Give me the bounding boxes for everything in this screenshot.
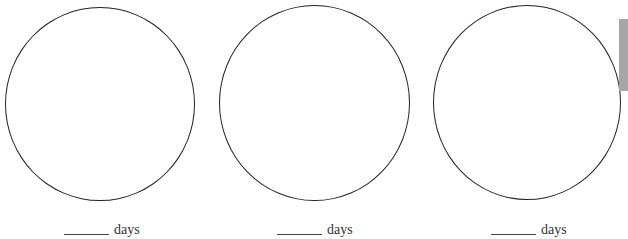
side-tab [619, 19, 628, 91]
unit-label-3: days [541, 222, 567, 238]
circle-3 [433, 5, 621, 200]
circle-2 [219, 5, 410, 201]
answer-blank-3[interactable] [491, 234, 536, 235]
answer-blank-2[interactable] [277, 234, 322, 235]
unit-label-2: days [327, 222, 353, 238]
answer-1: days [64, 222, 140, 238]
answer-2: days [277, 222, 353, 238]
answer-3: days [491, 222, 567, 238]
circle-1 [5, 7, 195, 201]
unit-label-1: days [114, 222, 140, 238]
answer-blank-1[interactable] [64, 234, 109, 235]
